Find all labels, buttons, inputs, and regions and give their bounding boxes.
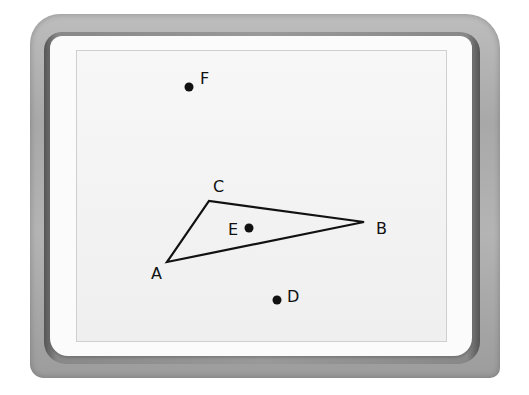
label-d: D [287, 287, 299, 306]
label-e: E [228, 220, 238, 239]
triangle-abc [167, 201, 364, 262]
label-b: B [376, 219, 387, 238]
geometry-diagram: A B C E D F [0, 0, 529, 395]
point-f-dot [185, 83, 194, 92]
label-a: A [151, 264, 162, 283]
label-f: F [200, 69, 209, 88]
label-c: C [213, 177, 224, 196]
point-e-dot [245, 224, 254, 233]
point-d-dot [273, 296, 282, 305]
